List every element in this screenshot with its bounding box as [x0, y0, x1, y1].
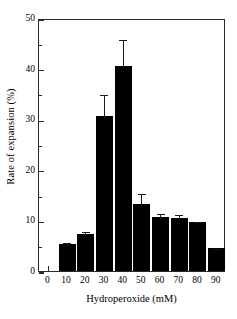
- error-bar-line: [104, 95, 105, 118]
- x-axis-title: Hydroperoxide (mM): [38, 293, 225, 304]
- y-axis-title-text: Rate of expansion (%): [5, 88, 16, 184]
- bar: [115, 66, 132, 271]
- error-bar-cap: [213, 249, 221, 250]
- y-axis-tick: [39, 121, 44, 122]
- plot-frame: [38, 19, 225, 272]
- y-axis-tick-label: 0: [30, 267, 35, 277]
- y-axis-tick-label: 30: [26, 115, 36, 125]
- error-bar-cap: [175, 215, 183, 216]
- bar: [59, 244, 76, 271]
- x-axis-tick: [48, 266, 49, 271]
- y-axis-tick-labels: 01020304050: [18, 0, 35, 319]
- bar: [208, 248, 225, 271]
- x-axis-tick-label: 20: [80, 276, 90, 286]
- x-axis-tick-label: 90: [211, 276, 221, 286]
- bar-chart-figure: Rate of expansion (%) 01020304050 010203…: [0, 0, 237, 319]
- bar: [133, 204, 150, 271]
- error-bar-cap: [157, 214, 165, 215]
- x-axis-tick-labels: 0102030405060708090: [38, 276, 225, 290]
- y-axis-tick-label: 40: [26, 65, 36, 75]
- y-axis-minor-tick: [39, 45, 42, 46]
- bar: [171, 218, 188, 271]
- y-axis-minor-tick: [39, 247, 42, 248]
- y-axis-tick: [39, 171, 44, 172]
- plot-area: [39, 20, 224, 271]
- error-bar-cap: [138, 194, 146, 195]
- y-axis-minor-tick: [39, 146, 42, 147]
- y-axis-tick-label: 20: [26, 166, 36, 176]
- y-axis-tick-label: 50: [26, 14, 36, 24]
- bar: [77, 234, 94, 271]
- y-axis-tick: [39, 70, 44, 71]
- x-axis-tick-label: 50: [136, 276, 146, 286]
- y-axis-tick: [39, 272, 44, 273]
- error-bar-line: [123, 40, 124, 68]
- error-bar-cap: [63, 243, 71, 244]
- x-axis-tick-label: 40: [117, 276, 127, 286]
- error-bar-cap: [82, 232, 90, 233]
- bar: [152, 217, 169, 271]
- y-axis-minor-tick: [39, 95, 42, 96]
- x-axis-tick-label: 30: [99, 276, 109, 286]
- x-axis-tick-label: 60: [155, 276, 165, 286]
- error-bar-cap: [119, 40, 127, 41]
- y-axis-title: Rate of expansion (%): [0, 0, 20, 272]
- x-axis-tick-label: 0: [45, 276, 50, 286]
- bar: [96, 116, 113, 271]
- y-axis-minor-tick: [39, 197, 42, 198]
- y-axis-tick: [39, 19, 44, 20]
- x-axis-tick-label: 70: [174, 276, 184, 286]
- x-axis-tick-label: 10: [61, 276, 71, 286]
- y-axis-tick-label: 10: [26, 217, 36, 227]
- error-bar-cap: [194, 222, 202, 223]
- x-axis-tick-label: 80: [192, 276, 202, 286]
- bar: [189, 222, 206, 271]
- y-axis-tick: [39, 222, 44, 223]
- error-bar-cap: [100, 95, 108, 96]
- error-bar-line: [141, 194, 142, 206]
